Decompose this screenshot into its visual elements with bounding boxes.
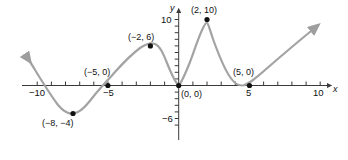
y-axis-label: y xyxy=(170,3,175,13)
label-2-10: (2, 10) xyxy=(191,6,217,15)
graph-figure: −10 −5 5 10 10 −6 x y (−8, −4) (−5, 0) (… xyxy=(0,0,348,160)
label-minus2-6: (−2, 6) xyxy=(128,33,154,42)
x-tick-label-10: 10 xyxy=(313,88,324,98)
y-axis xyxy=(175,10,179,140)
plot-curve xyxy=(29,23,317,114)
x-tick-label-minus10: −10 xyxy=(29,88,45,98)
x-tick-label-minus5: −5 xyxy=(103,88,114,98)
y-tick-label-10: 10 xyxy=(161,15,172,25)
label-5-0: (5, 0) xyxy=(233,68,254,77)
point-0-0 xyxy=(176,83,181,88)
x-tick-label-5: 5 xyxy=(246,88,251,98)
label-0-0: (0, 0) xyxy=(181,90,202,99)
label-minus5-0: (−5, 0) xyxy=(84,68,110,77)
y-tick-label-minus6: −6 xyxy=(162,114,173,124)
point-2-10 xyxy=(204,17,209,22)
graph-canvas xyxy=(0,0,348,160)
x-axis-label: x xyxy=(333,84,338,94)
point-minus8-minus4 xyxy=(70,111,75,116)
point-minus2-6 xyxy=(148,43,153,48)
y-axis-ticks xyxy=(175,20,179,126)
label-minus8-minus4: (−8, −4) xyxy=(42,119,74,128)
